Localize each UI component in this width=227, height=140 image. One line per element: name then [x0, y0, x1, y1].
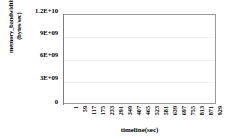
y-tick-label: 9E+09 [20, 30, 58, 37]
y-axis-title-line1: memory_bandwidth [7, 0, 14, 53]
x-tick-label: 697 [171, 105, 180, 125]
y-tick-label: 1.2E+10 [20, 8, 58, 15]
x-tick-label: 175 [90, 105, 99, 125]
x-tick-label: 59 [72, 105, 81, 125]
x-tick-label: 813 [189, 105, 198, 125]
chart-container: memory_bandwidth (bytes/sec) 1.2E+10 9E+… [0, 0, 227, 140]
x-tick-label: 233 [99, 105, 108, 125]
y-tick-label: 0 [20, 99, 58, 106]
x-tick-label: 523 [144, 105, 153, 125]
y-tick-label: 6E+09 [20, 52, 58, 59]
x-tick-label: 291 [108, 105, 117, 125]
x-tick-label: 871 [198, 105, 207, 125]
x-axis-ticks: 1591171752332913494074655235816396977558… [63, 105, 216, 127]
x-tick-label: 755 [180, 105, 189, 125]
y-tick-label: 3E+09 [20, 75, 58, 82]
x-tick-label: 349 [117, 105, 126, 125]
x-tick-label: 639 [162, 105, 171, 125]
x-tick-label: 929 [207, 105, 216, 125]
x-tick-label: 465 [135, 105, 144, 125]
x-tick-label: 117 [81, 105, 90, 125]
x-tick-label: 407 [126, 105, 135, 125]
data-series-layer [64, 15, 215, 103]
x-axis-title: timeline(sec) [63, 126, 216, 134]
plot-inner [64, 15, 215, 103]
x-tick-label: 1 [63, 105, 72, 125]
x-tick-label-text: 929 [216, 106, 223, 115]
x-tick-label: 581 [153, 105, 162, 125]
plot-area [63, 14, 216, 104]
y-axis-line [63, 14, 64, 105]
